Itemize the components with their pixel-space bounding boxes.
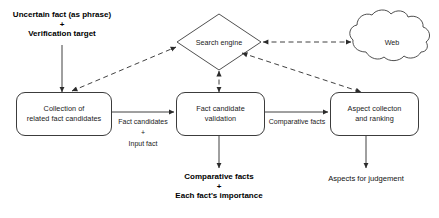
edge-label-fact-candidates-line2: Input fact xyxy=(106,139,180,150)
aspect-line1: Aspect collecton xyxy=(348,104,402,114)
collection-line1: Collection of xyxy=(27,104,102,114)
node-collection-of-related-fact-candidates[interactable]: Collection of related fact candidates xyxy=(16,92,112,136)
aspect-line2: and ranking xyxy=(348,114,402,124)
node-aspect-collection-and-ranking[interactable]: Aspect collecton and ranking xyxy=(330,92,419,136)
edge-label-fact-candidates-plus: + xyxy=(106,128,180,139)
edge-label-comparative-facts: Comparative facts xyxy=(263,117,331,128)
web-cloud-shape xyxy=(350,10,430,61)
output-right-label: Aspects for judgement xyxy=(306,174,426,184)
input-label-line2: Verification target xyxy=(0,29,124,40)
diagram-canvas: Uncertain fact (as phrase) + Verificatio… xyxy=(0,0,439,218)
node-fact-candidate-validation[interactable]: Fact candidate validation xyxy=(176,92,265,136)
search-engine-label: Search engine xyxy=(177,38,261,47)
output-center-line1: Comparative facts xyxy=(149,172,289,183)
validation-line2: validation xyxy=(196,114,245,124)
edge-label-fact-candidates-line1: Fact candidates xyxy=(106,117,180,128)
collection-line2: related fact candidates xyxy=(27,114,102,124)
dashed-search-engine-aspect xyxy=(242,53,361,92)
web-label: Web xyxy=(352,38,432,47)
input-label-line1: Uncertain fact (as phrase) xyxy=(0,10,124,21)
output-center-line2: Each fact's importance xyxy=(149,191,289,202)
validation-line1: Fact candidate xyxy=(196,104,245,114)
dashed-collection-search-engine xyxy=(72,47,176,91)
